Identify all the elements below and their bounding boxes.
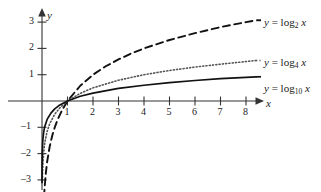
curve-label-log2-lhs: y <box>264 16 269 28</box>
y-axis-label: y <box>47 9 52 21</box>
x-tick-label: 6 <box>192 106 197 117</box>
x-axis-label: x <box>266 97 271 109</box>
curve-log2 <box>44 20 256 192</box>
y-tick-label: 3 <box>29 15 34 26</box>
logarithm-curves-figure: y x 12345678 321–1–2–3 y = log2 x y = lo… <box>0 0 321 192</box>
curve-label-log2-base: 2 <box>295 21 299 30</box>
curve-label-log4-arg: x <box>301 56 306 68</box>
x-tick-label: 8 <box>243 106 248 117</box>
curve-label-log10-fn: log <box>281 82 295 94</box>
curve-label-log2: y = log2 x <box>264 16 306 30</box>
x-axis-arrowhead <box>256 97 265 104</box>
y-tick-label: –1 <box>21 120 31 131</box>
curve-label-log10-eq: = <box>272 82 278 94</box>
curve-label-log2-eq: = <box>272 16 278 28</box>
y-tick-label: –2 <box>21 147 31 158</box>
curve-label-log10-lhs: y <box>264 82 269 94</box>
x-tick-label: 4 <box>141 106 146 117</box>
x-tick-label: 5 <box>167 106 172 117</box>
y-axis-arrowhead <box>38 8 46 17</box>
curve-label-log10: y = log10 x <box>264 82 310 96</box>
curve-label-log4-fn: log <box>281 56 295 68</box>
curve-label-log4-eq: = <box>272 56 278 68</box>
x-tick-label: 2 <box>90 106 95 117</box>
curves-group <box>42 20 261 192</box>
curve-label-log4-lhs: y <box>264 56 269 68</box>
curve-label-log10-base: 10 <box>295 87 303 96</box>
curve-label-log2-fn: log <box>281 16 295 28</box>
curve-label-log2-arg: x <box>301 16 306 28</box>
x-tick-label: 1 <box>65 106 70 117</box>
y-tick-label: –3 <box>21 173 31 184</box>
y-tick-label: 2 <box>29 41 34 52</box>
curve-label-log4-base: 4 <box>295 61 299 70</box>
curve-label-log4: y = log4 x <box>264 56 306 70</box>
x-tick-label: 7 <box>218 106 223 117</box>
x-tick-label: 3 <box>116 106 121 117</box>
y-tick-label: 1 <box>29 68 34 79</box>
curve-label-log10-arg: x <box>305 82 310 94</box>
